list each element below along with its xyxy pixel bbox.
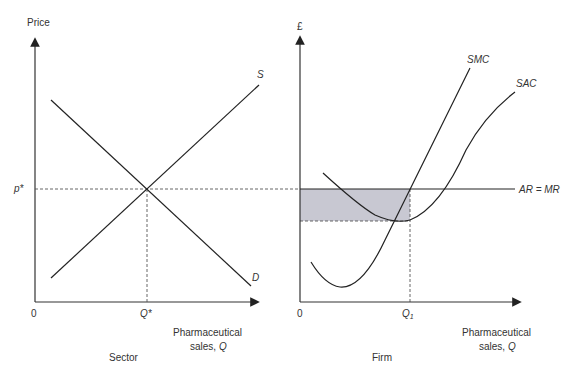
supply-label: S xyxy=(257,69,264,80)
x-axis-label-line2: sales, Q xyxy=(190,341,227,352)
sector-panel: Price p* 0 Q* S D Pharmaceutical sales, … xyxy=(13,17,300,363)
demand-label: D xyxy=(252,272,259,283)
smc-curve xyxy=(311,68,470,287)
x-axis-label-line1: Pharmaceutical xyxy=(173,327,242,338)
sac-label: SAC xyxy=(516,78,537,89)
equilibrium-price-label: p* xyxy=(13,183,25,194)
firm-x-axis-label-line1: Pharmaceutical xyxy=(462,327,531,338)
equilibrium-quantity-label: Q* xyxy=(140,308,153,319)
profit-area xyxy=(300,189,410,221)
firm-caption: Firm xyxy=(372,352,392,363)
origin-label: 0 xyxy=(31,308,37,319)
diagram-canvas: Price p* 0 Q* S D Pharmaceutical sales, … xyxy=(0,0,580,377)
smc-label: SMC xyxy=(467,54,490,65)
firm-quantity-label: Q1 xyxy=(402,308,414,320)
firm-origin-label: 0 xyxy=(297,308,303,319)
sector-caption: Sector xyxy=(109,352,139,363)
demand-curve xyxy=(51,100,251,286)
supply-curve xyxy=(51,85,259,278)
ar-mr-label: AR = MR xyxy=(518,184,560,195)
firm-panel: £ 0 Q1 SMC SAC AR = MR Pharmaceutical sa… xyxy=(297,21,560,363)
pound-axis-label: £ xyxy=(297,21,303,32)
price-axis-label: Price xyxy=(27,17,50,28)
firm-x-axis-label-line2: sales, Q xyxy=(479,341,516,352)
